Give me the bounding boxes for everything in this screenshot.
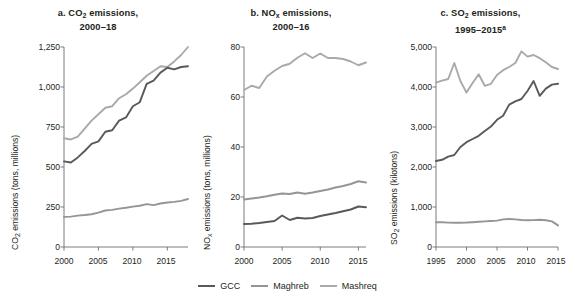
panel-b-xtick-2000: 2000	[224, 256, 264, 266]
panel-c-title-prefix: c. SO	[440, 8, 464, 18]
panel-b-svg	[244, 47, 366, 247]
legend-label-gcc: GCC	[220, 281, 240, 291]
panel-c-title: c. SO2 emissions, 1995–2015a	[386, 8, 575, 36]
panel-b-title-years: 2000–16	[196, 22, 386, 34]
legend-swatch-mashreq	[320, 285, 337, 287]
panel-b-ytick-0: 0	[204, 242, 240, 252]
panel-a-ytick-1250: 1,250	[14, 42, 60, 52]
panel-c-ytick-0: 0	[388, 242, 432, 252]
panel-a-ylabel-rest: emissions (tons, millions)	[10, 135, 20, 233]
panel-c-title-footnote-marker: a	[502, 24, 506, 31]
series-line-gcc	[244, 207, 366, 225]
panel-c-ytick-1000: 1,000	[388, 202, 432, 212]
panel-c-plot	[436, 47, 558, 247]
panel-a-plot	[64, 47, 188, 247]
legend-item-mashreq: Mashreq	[320, 281, 377, 291]
panel-a-title-mid: emissions,	[87, 8, 139, 18]
figure-container: a. CO2 emissions, 2000–18 CO2 emissions …	[0, 0, 575, 307]
legend-label-mashreq: Mashreq	[342, 281, 377, 291]
panel-a-ytick-250: 250	[14, 202, 60, 212]
panel-a-svg	[64, 47, 188, 247]
series-line-mashreq	[64, 47, 188, 139]
panel-a-title-prefix: a. CO	[58, 8, 83, 18]
panel-a-ytick-0: 0	[14, 242, 60, 252]
chart-legend: GCC Maghreb Mashreq	[0, 281, 575, 291]
series-line-maghreb	[64, 199, 188, 217]
panel-c-ytick-2000: 2,000	[388, 162, 432, 172]
panel-b-ylabel-sub: x	[206, 234, 213, 238]
panel-nox: b. NOx emissions, 2000–16 NOx emissions …	[196, 0, 386, 278]
panel-b-title: b. NOx emissions, 2000–16	[196, 8, 386, 33]
legend-swatch-maghreb	[251, 285, 268, 287]
series-line-gcc	[64, 66, 188, 162]
legend-label-maghreb: Maghreb	[273, 281, 309, 291]
panel-c-svg	[436, 47, 558, 247]
panel-c-title-years-wrap: 1995–2015a	[386, 22, 575, 37]
series-line-mashreq	[244, 53, 366, 90]
panel-a-ytick-750: 750	[14, 122, 60, 132]
panel-b-ytick-40: 40	[204, 142, 240, 152]
panel-b-title-mid: emissions,	[280, 8, 332, 18]
panel-b-xtick-2015: 2015	[338, 256, 378, 266]
legend-item-gcc: GCC	[198, 281, 240, 291]
panel-a-title: a. CO2 emissions, 2000–18	[0, 8, 196, 33]
panel-b-ytick-60: 60	[204, 92, 240, 102]
panels-row: a. CO2 emissions, 2000–18 CO2 emissions …	[0, 0, 575, 278]
panel-c-ytick-4000: 4,000	[388, 82, 432, 92]
panel-so2: c. SO2 emissions, 1995–2015a SO2 emissio…	[386, 0, 575, 278]
series-line-maghreb	[244, 181, 366, 199]
panel-a-xtick-2015: 2015	[146, 256, 186, 266]
series-line-maghreb	[436, 219, 558, 225]
series-line-gcc	[436, 81, 558, 161]
panel-a-title-years: 2000–18	[0, 22, 196, 34]
panel-b-ytick-80: 80	[204, 42, 240, 52]
panel-a-ytick-1000: 1,000	[14, 82, 60, 92]
panel-c-ylabel-sub: 2	[393, 229, 400, 233]
panel-b-xtick-2005: 2005	[262, 256, 302, 266]
panel-b-xtick-2010: 2010	[300, 256, 340, 266]
panel-a-ylabel-sub: 2	[14, 233, 21, 237]
panel-c-xtick-2015: 2015	[536, 256, 575, 266]
panel-co2: a. CO2 emissions, 2000–18 CO2 emissions …	[0, 0, 196, 278]
panel-c-ytick-5000: 5,000	[388, 42, 432, 52]
legend-item-maghreb: Maghreb	[251, 281, 309, 291]
panel-c-title-years: 1995–2015	[455, 25, 502, 35]
panel-b-ytick-20: 20	[204, 192, 240, 202]
legend-swatch-gcc	[198, 285, 215, 287]
panel-a-ylabel: CO2 emissions (tons, millions)	[10, 135, 21, 250]
panel-c-title-mid: emissions,	[469, 8, 521, 18]
panel-c-ytick-3000: 3,000	[388, 122, 432, 132]
panel-a-ytick-500: 500	[14, 162, 60, 172]
panel-b-plot	[244, 47, 366, 247]
series-line-mashreq	[436, 51, 558, 92]
panel-b-title-prefix: b. NO	[250, 8, 275, 18]
